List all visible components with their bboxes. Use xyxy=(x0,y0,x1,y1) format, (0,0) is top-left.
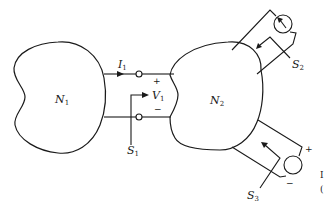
current-source-arrow-shaft xyxy=(280,20,286,28)
s1-arrow-icon xyxy=(142,92,149,98)
port3-wire-upper xyxy=(258,120,302,156)
s3-label: S3 xyxy=(247,189,259,203)
s2-label: S2 xyxy=(292,58,304,72)
current-label: I1 xyxy=(117,58,127,72)
two-network-diagram: I1 + V1 − S1 N1 N2 S2 + − S3 I ( xyxy=(0,0,326,206)
margin-fragment: I xyxy=(320,170,324,180)
voltage-minus-sign: − xyxy=(154,104,162,114)
voltage-plus-sign: + xyxy=(153,76,161,86)
margin-fragment: ( xyxy=(320,184,324,194)
source-plus-sign: + xyxy=(305,144,313,154)
source-minus-sign: − xyxy=(286,178,294,188)
terminal-top xyxy=(136,71,142,77)
cut-surface-s2 xyxy=(260,37,290,58)
voltage-source-icon xyxy=(284,156,302,174)
s1-label: S1 xyxy=(127,144,139,158)
voltage-label: V1 xyxy=(152,89,164,103)
terminal-bottom xyxy=(136,114,142,120)
port2-wire-inner xyxy=(257,32,296,74)
